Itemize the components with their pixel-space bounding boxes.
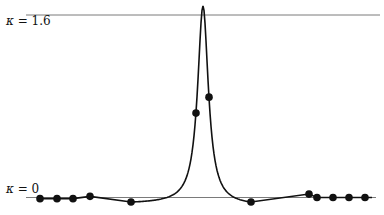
kappa-curve-plot (0, 0, 384, 215)
data-point-marker (361, 194, 369, 202)
kappa-curve (40, 6, 372, 202)
data-point-marker (345, 194, 353, 202)
data-point-marker (127, 198, 135, 206)
data-point-marker (53, 195, 61, 203)
data-point-marker (205, 93, 213, 101)
data-point-marker (86, 193, 94, 201)
data-point-marker (69, 195, 77, 203)
data-point-marker (313, 194, 321, 202)
label-kappa-zero: κ = 0 (6, 182, 39, 196)
data-point-marker (305, 190, 313, 198)
data-point-marker (192, 109, 200, 117)
data-point-marker (329, 194, 337, 202)
kappa-symbol: κ (6, 14, 14, 28)
label-kappa-max: κ = 1.6 (6, 14, 51, 28)
data-point-marker (247, 198, 255, 206)
kappa-symbol: κ (6, 182, 14, 196)
sample-points (36, 93, 369, 206)
